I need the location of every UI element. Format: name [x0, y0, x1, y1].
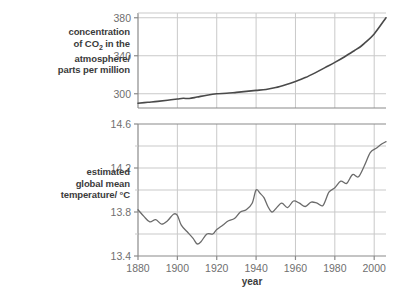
co2-label-line-3: atmosphere/: [75, 53, 130, 64]
svg-text:2000: 2000: [363, 262, 387, 274]
co2-label-line-4: parts per million: [58, 64, 130, 75]
co2-axis-label: concentration of CO2 in the atmosphere/ …: [6, 26, 130, 76]
figure-container: concentration of CO2 in the atmosphere/ …: [0, 0, 397, 297]
axis-ticks: [134, 18, 374, 260]
co2-label-line-2-suffix: in the: [103, 38, 130, 49]
svg-text:13.4: 13.4: [111, 250, 132, 262]
co2-label-line-2-prefix: of CO: [74, 38, 99, 49]
svg-text:13.8: 13.8: [111, 206, 132, 218]
co2-data-line: [138, 18, 386, 104]
x-axis-label: year: [212, 276, 292, 287]
svg-text:1980: 1980: [323, 262, 347, 274]
bottom-panel-gridlines: [138, 124, 386, 256]
svg-text:14.6: 14.6: [111, 118, 132, 130]
svg-text:1880: 1880: [126, 262, 150, 274]
temp-label-line-1: estimated: [87, 166, 130, 177]
temp-label-line-2: global mean: [76, 178, 130, 189]
top-panel-gridlines: [138, 13, 386, 108]
svg-text:300: 300: [113, 88, 131, 100]
temp-label-line-3: temperature/ °C: [61, 189, 130, 200]
co2-label-line-1: concentration: [68, 26, 130, 37]
svg-text:1960: 1960: [284, 262, 308, 274]
svg-text:1920: 1920: [205, 262, 229, 274]
axis-tick-labels: 30034038013.413.814.214.6188019001920194…: [111, 12, 386, 274]
svg-text:1940: 1940: [244, 262, 268, 274]
svg-text:380: 380: [113, 12, 131, 24]
svg-text:1900: 1900: [166, 262, 190, 274]
temperature-data-line: [138, 142, 386, 244]
temperature-axis-label: estimated global mean temperature/ °C: [6, 166, 130, 201]
